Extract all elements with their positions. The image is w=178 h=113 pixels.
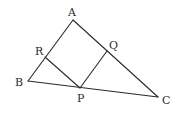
label-q: Q — [109, 39, 118, 52]
label-p: P — [77, 92, 85, 105]
triangle-diagram: A B C R Q P — [0, 0, 178, 113]
segment-pq — [80, 51, 107, 88]
segment-ac — [73, 20, 158, 97]
label-a: A — [67, 6, 77, 19]
label-r: R — [35, 45, 44, 58]
label-b: B — [15, 76, 23, 89]
label-c: C — [162, 94, 170, 107]
segment-bc — [28, 81, 158, 97]
